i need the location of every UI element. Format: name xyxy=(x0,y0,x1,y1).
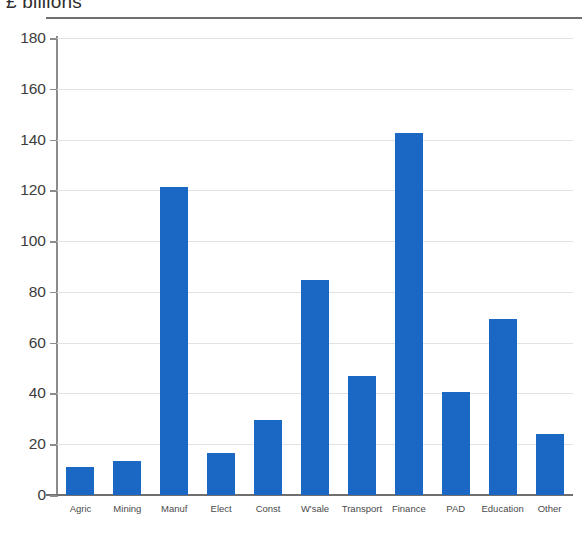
x-axis-tick-label: Manuf xyxy=(161,503,187,514)
y-axis-tickmark xyxy=(50,343,57,345)
x-axis: AgricMiningManufElectConstW'saleTranspor… xyxy=(57,503,573,523)
y-axis-tickmark xyxy=(50,89,57,91)
x-axis-tick-label: PAD xyxy=(446,503,465,514)
y-axis-tick-label: 100 xyxy=(20,232,46,250)
bar xyxy=(207,453,235,495)
bar-series xyxy=(57,38,573,495)
y-axis-tick-label: 60 xyxy=(29,334,46,352)
bar xyxy=(160,187,188,495)
x-axis-tick-label: Agric xyxy=(70,503,92,514)
y-axis-tick-label: 160 xyxy=(20,80,46,98)
x-axis-tick-label: Education xyxy=(481,503,523,514)
y-axis-tickmark xyxy=(50,140,57,142)
y-axis-tick-label: 40 xyxy=(29,384,46,402)
y-axis-tick-label: 0 xyxy=(37,486,46,504)
x-axis-tick-label: W'sale xyxy=(301,503,329,514)
bar xyxy=(442,392,470,495)
x-axis-tick-label: Elect xyxy=(211,503,232,514)
bar xyxy=(66,467,94,495)
y-axis-tickmark xyxy=(50,38,57,40)
x-axis-tick-label: Const xyxy=(256,503,281,514)
y-axis-tickmark xyxy=(50,393,57,395)
y-axis-tickmark xyxy=(50,241,57,243)
y-axis-tick-label: 20 xyxy=(29,435,46,453)
y-axis-tick-label: 140 xyxy=(20,131,46,149)
bar xyxy=(348,376,376,495)
y-axis-tick-label: 80 xyxy=(29,283,46,301)
y-axis-tickmark xyxy=(50,292,57,294)
title-divider xyxy=(46,17,582,19)
x-axis-tick-label: Other xyxy=(538,503,562,514)
x-axis-tick-label: Transport xyxy=(342,503,382,514)
y-axis-tickmark xyxy=(50,190,57,192)
x-axis-tick-label: Mining xyxy=(113,503,141,514)
bar xyxy=(301,280,329,495)
y-axis-tickmark xyxy=(50,495,57,497)
bar xyxy=(113,461,141,495)
plot-area: 020406080100120140160180 xyxy=(57,38,573,495)
y-axis-tick-label: 180 xyxy=(20,29,46,47)
bar xyxy=(536,434,564,495)
chart-title: £ billions xyxy=(6,0,82,13)
bar xyxy=(395,133,423,495)
bar xyxy=(254,420,282,495)
x-axis-tick-label: Finance xyxy=(392,503,426,514)
bar xyxy=(489,319,517,495)
y-axis-tickmark xyxy=(50,444,57,446)
y-axis-tick-label: 120 xyxy=(20,181,46,199)
